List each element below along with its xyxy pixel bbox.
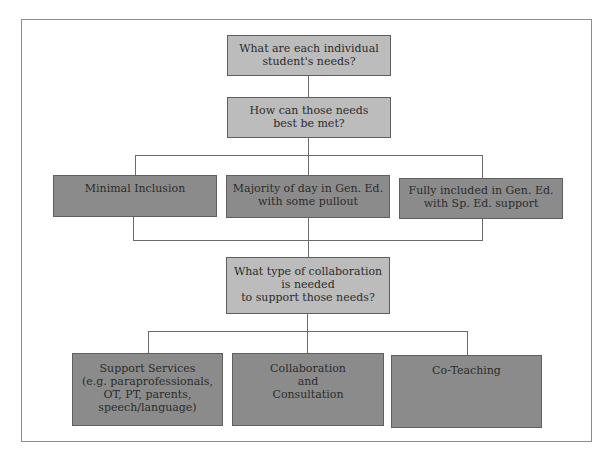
connector-q2-branch xyxy=(308,137,309,175)
option-majority-gen-ed: Majority of day in Gen. Ed. with some pu… xyxy=(226,175,390,218)
question-text-line: to support those needs? xyxy=(241,291,375,304)
question-box-how-met: How can those needs best be met? xyxy=(227,97,391,138)
collab-text-line: speech/language) xyxy=(98,401,196,414)
option-minimal-inclusion: Minimal Inclusion xyxy=(53,175,217,217)
question-text-line: How can those needs xyxy=(250,104,369,117)
option-text-line: with some pullout xyxy=(258,195,358,208)
question-text-line: student's needs? xyxy=(262,55,355,68)
branch-right-bottom xyxy=(482,218,483,240)
question-box-student-needs: What are each individual student's needs… xyxy=(227,35,391,76)
collab-text-line: (e.g. paraprofessionals, xyxy=(82,375,213,388)
option-text-line: Minimal Inclusion xyxy=(85,182,185,195)
collab-text-line: OT, PT, parents, xyxy=(104,388,192,401)
collab-branch-right xyxy=(467,331,468,355)
branch-left-bottom xyxy=(133,216,134,240)
question-text-line: What type of collaboration xyxy=(234,265,382,278)
collab-text-line: Co-Teaching xyxy=(432,364,501,377)
branch-right-top xyxy=(482,155,483,178)
branch-left-top xyxy=(135,155,136,175)
collab-text-line: Support Services xyxy=(100,362,196,375)
collab-text-line: and xyxy=(298,375,319,388)
connector-q3-branch xyxy=(307,313,308,353)
collab-text-line: Consultation xyxy=(273,388,344,401)
connector-q1-q2 xyxy=(308,75,309,97)
collab-branch-left xyxy=(148,331,149,353)
question-box-collaboration-type: What type of collaboration is needed to … xyxy=(226,257,390,314)
question-text-line: best be met? xyxy=(273,117,344,130)
option-text-line: Majority of day in Gen. Ed. xyxy=(233,182,383,195)
collab-text-line: Collaboration xyxy=(270,362,346,375)
collab-consultation: Collaboration and Consultation xyxy=(232,353,384,426)
question-text-line: is needed xyxy=(281,278,334,291)
collab-branch-line xyxy=(148,331,467,332)
collab-support-services: Support Services (e.g. paraprofessionals… xyxy=(72,353,223,426)
connector-middle-q3 xyxy=(308,217,309,257)
option-fully-included: Fully included in Gen. Ed. with Sp. Ed. … xyxy=(399,178,563,219)
option-text-line: with Sp. Ed. support xyxy=(424,197,539,210)
branch-top-line xyxy=(135,155,483,156)
collab-co-teaching: Co-Teaching xyxy=(391,355,542,428)
question-text-line: What are each individual xyxy=(239,42,379,55)
option-text-line: Fully included in Gen. Ed. xyxy=(409,184,554,197)
